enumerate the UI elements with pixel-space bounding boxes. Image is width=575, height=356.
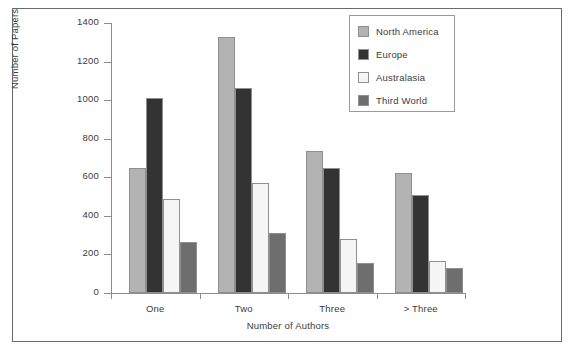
y-axis-tick-mark: [104, 254, 111, 255]
bar[interactable]: [412, 195, 429, 293]
y-axis-tick-label: 1400: [77, 16, 99, 27]
legend-label: Third World: [376, 95, 427, 106]
y-axis-tick-label: 200: [83, 247, 99, 258]
x-axis-tick-mark: [288, 293, 289, 299]
bar[interactable]: [357, 263, 374, 293]
y-axis-tick-label: 1000: [77, 93, 99, 104]
bar[interactable]: [340, 239, 357, 293]
y-axis-tick-mark: [104, 100, 111, 101]
legend-item[interactable]: Europe: [358, 48, 408, 60]
chart-legend: North AmericaEuropeAustralasiaThird Worl…: [349, 15, 455, 112]
bar[interactable]: [252, 183, 269, 293]
x-axis-tick-label: Three: [288, 303, 377, 314]
bar-group: [129, 23, 197, 293]
y-axis-tick-label: 1200: [77, 55, 99, 66]
legend-label: North America: [376, 26, 439, 37]
legend-label: Europe: [376, 49, 408, 60]
bar[interactable]: [129, 168, 146, 293]
y-axis-tick-label: 0: [94, 286, 99, 297]
bar[interactable]: [146, 98, 163, 293]
legend-label: Australasia: [376, 72, 425, 83]
y-axis-title: Number of Papers: [9, 0, 20, 89]
x-axis-tick-mark: [465, 293, 466, 299]
bar[interactable]: [306, 151, 323, 293]
bar-group: [218, 23, 286, 293]
y-axis-tick-mark: [104, 62, 111, 63]
legend-swatch-icon: [358, 95, 369, 106]
legend-swatch-icon: [358, 72, 369, 83]
bar[interactable]: [395, 173, 412, 293]
y-axis-tick-mark: [104, 216, 111, 217]
bar[interactable]: [323, 168, 340, 293]
figure-frame: 0200400600800100012001400 Number of Pape…: [12, 8, 562, 342]
bar[interactable]: [429, 261, 446, 293]
x-axis-tick-label: One: [111, 303, 200, 314]
x-axis-tick-mark: [111, 293, 112, 299]
y-axis-tick-label: 400: [83, 209, 99, 220]
bar[interactable]: [180, 242, 197, 293]
y-axis-tick-label: 800: [83, 132, 99, 143]
bar[interactable]: [163, 199, 180, 294]
x-axis-tick-label: Two: [200, 303, 289, 314]
y-axis-tick-mark: [104, 23, 111, 24]
legend-swatch-icon: [358, 26, 369, 37]
bar[interactable]: [218, 37, 235, 294]
x-axis-tick-mark: [200, 293, 201, 299]
bar[interactable]: [269, 233, 286, 293]
legend-item[interactable]: Third World: [358, 94, 427, 106]
legend-swatch-icon: [358, 49, 369, 60]
y-axis-tick-mark: [104, 293, 111, 294]
legend-item[interactable]: Australasia: [358, 71, 425, 83]
legend-item[interactable]: North America: [358, 25, 439, 37]
bar[interactable]: [235, 88, 252, 293]
x-axis-title: Number of Authors: [111, 320, 465, 331]
y-axis-tick-mark: [104, 139, 111, 140]
y-axis-tick-label: 600: [83, 170, 99, 181]
y-axis-tick-mark: [104, 177, 111, 178]
bar[interactable]: [446, 268, 463, 293]
figure-caption-cropped: [14, 347, 554, 356]
x-axis-tick-mark: [377, 293, 378, 299]
x-axis-tick-label: > Three: [377, 303, 466, 314]
